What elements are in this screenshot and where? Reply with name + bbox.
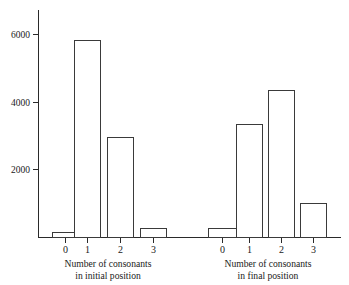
y-tick-label-4000: 4000: [11, 98, 30, 108]
x-tick-label-initial-1: 1: [85, 244, 90, 255]
x-tick-label-initial-2: 2: [118, 244, 123, 255]
x-tick-label-final-1: 1: [247, 244, 252, 255]
right-group-caption-line2: in final position: [238, 270, 299, 281]
bar-final-1: [237, 125, 263, 238]
bar-initial-1: [75, 41, 101, 238]
x-tick-label-initial-0: 0: [63, 244, 68, 255]
bar-initial-3: [141, 229, 167, 238]
y-tick-label-2000: 2000: [11, 165, 30, 175]
x-tick-label-final-2: 2: [279, 244, 284, 255]
chart-canvas: 6000 4000 2000 0 1 2 3 Number of consona…: [0, 0, 349, 285]
right-group-caption-line1: Number of consonants: [225, 258, 312, 269]
x-tick-label-initial-3: 3: [151, 244, 156, 255]
bar-final-0: [209, 229, 237, 238]
y-tick-label-6000: 6000: [11, 30, 30, 40]
x-tick-label-final-0: 0: [220, 244, 225, 255]
left-group-caption-line1: Number of consonants: [65, 258, 152, 269]
bar-chart-figure: 6000 4000 2000 0 1 2 3 Number of consona…: [0, 0, 349, 285]
bar-initial-2: [108, 138, 134, 238]
left-group-caption-line2: in initial position: [75, 270, 141, 281]
bar-final-3: [301, 204, 327, 238]
x-tick-label-final-3: 3: [311, 244, 316, 255]
bar-final-2: [269, 91, 295, 238]
